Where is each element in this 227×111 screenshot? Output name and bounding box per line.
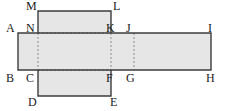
- vertex-label-D: D: [28, 96, 37, 108]
- vertex-label-E: E: [110, 96, 117, 108]
- vertex-label-I: I: [208, 22, 212, 34]
- vertex-label-M: M: [26, 0, 37, 12]
- vertex-label-B: B: [6, 72, 14, 84]
- box-net-figure: A M N L K J I B C F G H D E: [0, 0, 227, 111]
- vertex-label-J: J: [126, 22, 131, 34]
- vertex-label-C: C: [26, 72, 34, 84]
- vertex-label-G: G: [126, 72, 135, 84]
- vertical-strip-fill: [38, 11, 111, 96]
- vertex-label-A: A: [6, 22, 15, 34]
- vertex-label-H: H: [206, 72, 215, 84]
- vertex-label-L: L: [113, 0, 120, 12]
- vertex-label-N: N: [26, 22, 35, 34]
- vertex-label-F: F: [106, 72, 113, 84]
- vertex-label-K: K: [106, 22, 115, 34]
